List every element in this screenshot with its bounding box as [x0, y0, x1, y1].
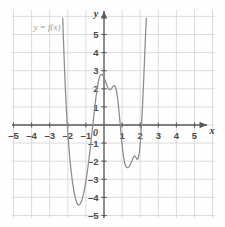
y-tick-label: –1	[88, 138, 99, 149]
y-tick-label: –3	[88, 174, 99, 185]
coordinate-plane: –5–4–3–2–112345 54321–1–2–3–4–5 0 x y y …	[0, 0, 225, 227]
y-axis-label: y	[92, 8, 99, 19]
x-tick-label: –5	[8, 130, 19, 141]
x-tick-label: –3	[44, 130, 55, 141]
y-tick-label: 3	[93, 65, 98, 76]
x-tick-label: –4	[26, 130, 37, 141]
y-tick-label: –4	[88, 192, 99, 203]
x-tick-label: 5	[192, 130, 198, 141]
y-tick-label: 4	[93, 47, 99, 58]
x-axis-label: x	[208, 125, 214, 136]
x-tick-label: 3	[156, 130, 161, 141]
function-annotation-label: y = f(x)	[32, 22, 60, 32]
y-tick-label: –5	[88, 210, 99, 221]
x-tick-label: 4	[174, 130, 180, 141]
graph-figure: –5–4–3–2–112345 54321–1–2–3–4–5 0 x y y …	[0, 0, 225, 227]
y-tick-label: 5	[93, 29, 99, 40]
origin-label: 0	[93, 127, 98, 138]
